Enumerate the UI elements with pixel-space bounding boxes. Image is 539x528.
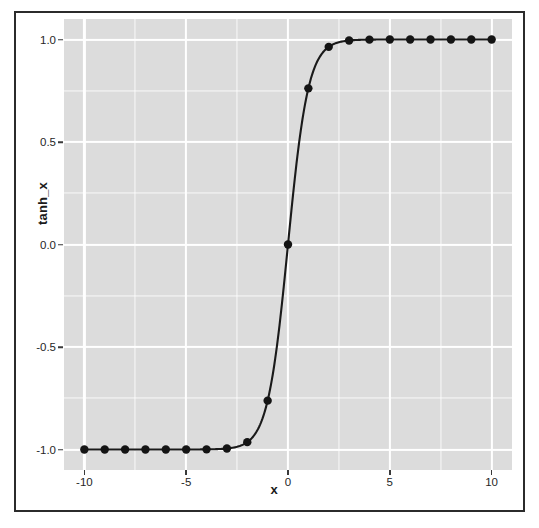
y-tick-mark (58, 244, 63, 246)
data-point (345, 36, 353, 44)
data-point (447, 35, 455, 43)
data-point (325, 43, 333, 51)
data-point (182, 445, 190, 453)
data-point (365, 35, 373, 43)
x-tick-mark (84, 470, 86, 475)
y-axis-ticks: 1.00.50.0-0.5-1.0 (0, 0, 56, 528)
x-tick-mark (389, 470, 391, 475)
x-axis-title: x (50, 482, 498, 497)
data-point (121, 445, 129, 453)
data-point (243, 438, 251, 446)
data-point (304, 84, 312, 92)
data-point (263, 396, 271, 404)
y-tick-label: -0.5 (10, 341, 56, 353)
data-point (426, 35, 434, 43)
data-point (202, 445, 210, 453)
data-point (101, 445, 109, 453)
x-tick-mark (185, 470, 187, 475)
data-point (467, 35, 475, 43)
chart-screenshot: 1.00.50.0-0.5-1.0 -10-50510 tanh_x x (0, 0, 539, 528)
tanh-data-points (80, 35, 496, 453)
data-layer (64, 19, 512, 470)
data-point (406, 35, 414, 43)
y-tick-mark (58, 346, 63, 348)
y-axis-title: tanh_x (35, 144, 50, 264)
data-point (80, 445, 88, 453)
data-point (487, 35, 495, 43)
data-point (284, 240, 292, 248)
data-point (386, 35, 394, 43)
y-tick-label: -1.0 (10, 444, 56, 456)
y-tick-label: 1.0 (10, 34, 56, 46)
x-tick-mark (491, 470, 493, 475)
y-tick-mark (58, 39, 63, 41)
plot-panel (64, 19, 512, 470)
x-tick-mark (287, 470, 289, 475)
data-point (162, 445, 170, 453)
y-tick-mark (58, 449, 63, 451)
data-point (141, 445, 149, 453)
data-point (223, 444, 231, 452)
y-tick-mark (58, 141, 63, 143)
